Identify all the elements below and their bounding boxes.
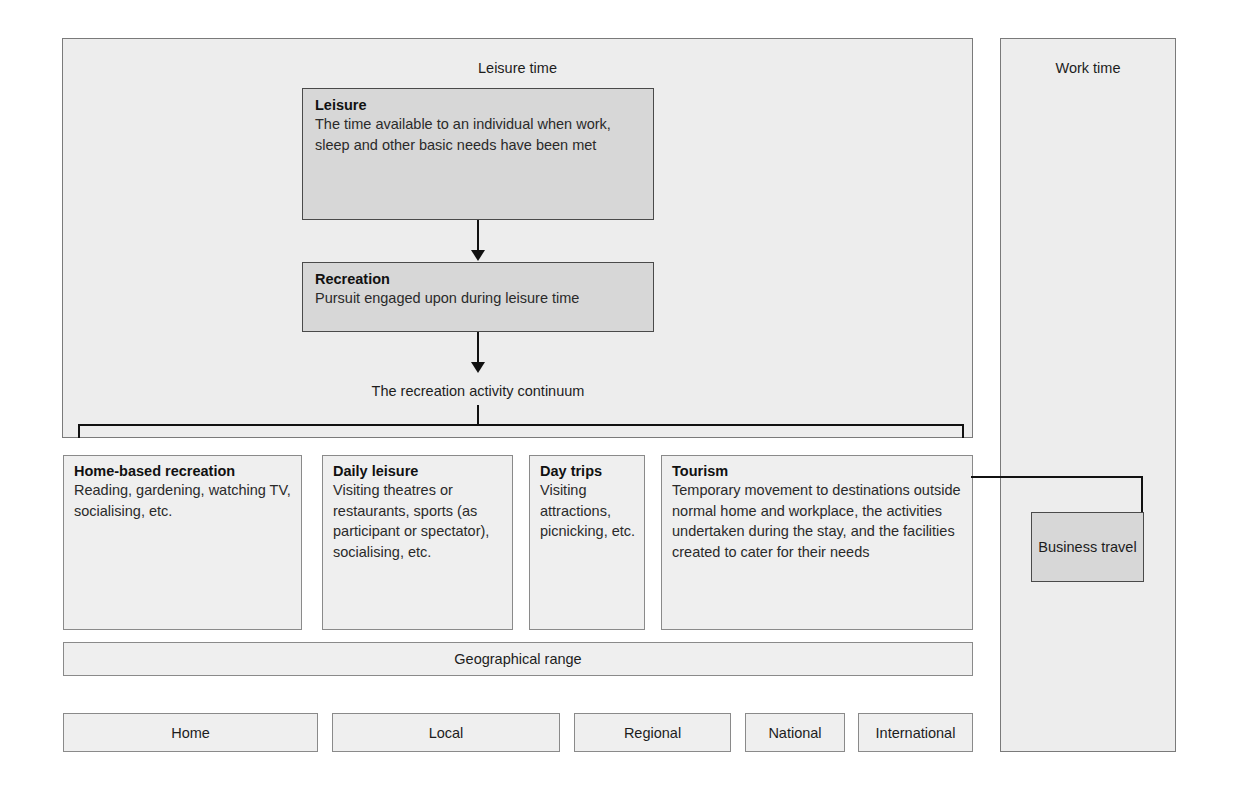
scale-box-regional: Regional bbox=[574, 713, 731, 752]
leisure-definition-box: Leisure The time available to an individ… bbox=[302, 88, 654, 220]
continuum-column-text: Day trips Visiting attractions, picnicki… bbox=[540, 463, 636, 542]
scale-label-national: National bbox=[746, 723, 844, 742]
continuum-column-daily-leisure: Daily leisure Visiting theatres or resta… bbox=[322, 455, 513, 630]
business-travel-label: Business travel bbox=[1032, 538, 1143, 557]
scale-box-home: Home bbox=[63, 713, 318, 752]
continuum-bracket-tick-left bbox=[78, 424, 80, 438]
tourism-term: Tourism bbox=[672, 463, 964, 479]
diagram-canvas: Leisure time Leisure The time available … bbox=[0, 0, 1234, 789]
recreation-definition-box: Recreation Pursuit engaged upon during l… bbox=[302, 262, 654, 332]
home-based-recreation-description: Reading, gardening, watching TV, sociali… bbox=[74, 480, 293, 521]
continuum-bracket-tick-right bbox=[962, 424, 964, 438]
connector-tourism-to-business-travel-vertical bbox=[1141, 476, 1143, 514]
continuum-column-text: Home-based recreation Reading, gardening… bbox=[74, 463, 293, 521]
day-trips-description: Visiting attractions, picnicking, etc. bbox=[540, 480, 636, 542]
continuum-label: The recreation activity continuum bbox=[352, 383, 604, 399]
continuum-bracket-bar bbox=[78, 424, 964, 426]
recreation-description: Pursuit engaged upon during leisure time bbox=[315, 288, 643, 309]
connector-leisure-to-recreation bbox=[477, 220, 479, 254]
connector-continuum-stem bbox=[477, 405, 479, 425]
scale-box-local: Local bbox=[332, 713, 560, 752]
scale-label-international: International bbox=[859, 723, 972, 742]
scale-label-regional: Regional bbox=[575, 723, 730, 742]
leisure-definition-text: Leisure The time available to an individ… bbox=[315, 97, 643, 155]
arrowhead-recreation-to-continuum bbox=[471, 362, 485, 373]
continuum-column-text: Daily leisure Visiting theatres or resta… bbox=[333, 463, 504, 562]
scale-box-international: International bbox=[858, 713, 973, 752]
business-travel-box: Business travel bbox=[1031, 512, 1144, 582]
continuum-column-text: Tourism Temporary movement to destinatio… bbox=[672, 463, 964, 562]
tourism-description: Temporary movement to destinations outsi… bbox=[672, 480, 964, 562]
continuum-column-tourism: Tourism Temporary movement to destinatio… bbox=[661, 455, 973, 630]
home-based-recreation-term: Home-based recreation bbox=[74, 463, 293, 479]
daily-leisure-description: Visiting theatres or restaurants, sports… bbox=[333, 480, 504, 562]
scale-label-local: Local bbox=[333, 723, 559, 742]
work-time-panel: Work time bbox=[1000, 38, 1176, 752]
geographical-range-bar: Geographical range bbox=[63, 642, 973, 676]
arrowhead-leisure-to-recreation bbox=[471, 250, 485, 261]
leisure-time-title: Leisure time bbox=[63, 60, 972, 76]
recreation-term: Recreation bbox=[315, 271, 643, 287]
scale-box-national: National bbox=[745, 713, 845, 752]
geographical-range-label: Geographical range bbox=[64, 650, 972, 669]
connector-recreation-to-continuum bbox=[477, 332, 479, 366]
continuum-column-day-trips: Day trips Visiting attractions, picnicki… bbox=[529, 455, 645, 630]
scale-label-home: Home bbox=[64, 723, 317, 742]
continuum-column-home-based: Home-based recreation Reading, gardening… bbox=[63, 455, 302, 630]
leisure-term: Leisure bbox=[315, 97, 643, 113]
connector-tourism-to-business-travel-horizontal bbox=[971, 476, 1143, 478]
recreation-definition-text: Recreation Pursuit engaged upon during l… bbox=[315, 271, 643, 309]
day-trips-term: Day trips bbox=[540, 463, 636, 479]
leisure-description: The time available to an individual when… bbox=[315, 114, 643, 155]
work-time-title: Work time bbox=[1001, 60, 1175, 76]
daily-leisure-term: Daily leisure bbox=[333, 463, 504, 479]
